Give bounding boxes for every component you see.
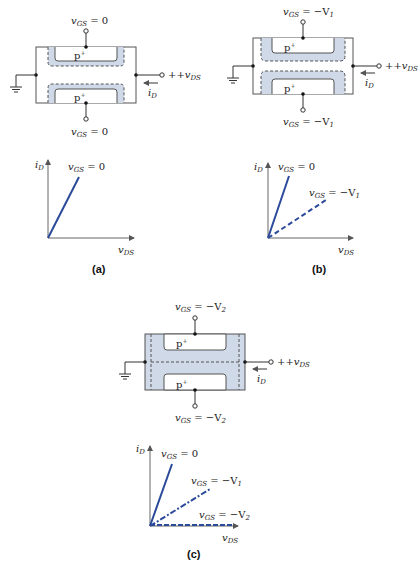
ground-icon: [227, 78, 239, 83]
svg-text:vGS = −V1: vGS = −V1: [283, 116, 334, 129]
svg-text:vGS = −V1: vGS = −V1: [283, 6, 334, 19]
current-label: iD: [148, 87, 157, 100]
jfet-panel-a: p+ p+ vGS = 0 vGS = 0 ++vDS iD: [10, 15, 201, 139]
drain-label: ++vDS: [168, 69, 201, 82]
caption-a: (a): [92, 263, 106, 275]
svg-text:iD: iD: [257, 373, 266, 386]
svg-text:vGS = −V2: vGS = −V2: [175, 412, 226, 425]
svg-text:vGS = 0: vGS = 0: [68, 161, 105, 174]
svg-text:vDS: vDS: [118, 244, 134, 257]
caption-b: (b): [312, 263, 326, 275]
svg-text:vDS: vDS: [222, 532, 238, 545]
svg-text:++vDS: ++vDS: [385, 60, 418, 73]
svg-text:iD: iD: [136, 443, 145, 456]
svg-text:vGS = −V2: vGS = −V2: [199, 509, 250, 522]
ground-icon: [119, 374, 131, 379]
iv-graph-c: iD vDS vGS = 0 vGS = −V1 vGS = −V2 (c): [136, 443, 250, 560]
iv-graph-b: iD vDS vGS = 0 vGS = −V1 (b): [254, 161, 360, 275]
svg-text:iD: iD: [365, 77, 374, 90]
curve-vgs-0: [48, 177, 79, 238]
svg-text:iD: iD: [35, 159, 44, 172]
svg-text:vGS = −V2: vGS = −V2: [175, 301, 226, 314]
ground-icon: [10, 87, 22, 92]
gate-top-label: vGS = 0: [71, 15, 108, 28]
iv-graph-a: iD vDS vGS = 0 (a): [35, 159, 134, 275]
svg-text:vGS = 0: vGS = 0: [278, 161, 315, 174]
jfet-panel-b: p+ p+ vGS = −V1 vGS = −V1 ++vDS iD: [227, 6, 418, 129]
gate-bottom-label: vGS = 0: [71, 126, 108, 139]
gate-terminal: [84, 117, 88, 121]
caption-c: (c): [187, 548, 201, 560]
gate-terminal: [84, 29, 88, 33]
jfet-panel-c: p+ p+ vGS = −V2 vGS = −V2 ++vDS iD: [119, 301, 310, 425]
svg-text:iD: iD: [254, 161, 263, 174]
svg-text:++vDS: ++vDS: [277, 356, 310, 369]
svg-text:vGS = 0: vGS = 0: [161, 448, 198, 461]
svg-text:vGS = −V1: vGS = −V1: [191, 475, 242, 488]
svg-text:vGS = −V1: vGS = −V1: [309, 187, 360, 200]
jfet-figure: p+ p+ vGS = 0 vGS = 0 ++vDS iD iD vDS: [0, 0, 420, 570]
svg-text:vDS: vDS: [338, 244, 354, 257]
